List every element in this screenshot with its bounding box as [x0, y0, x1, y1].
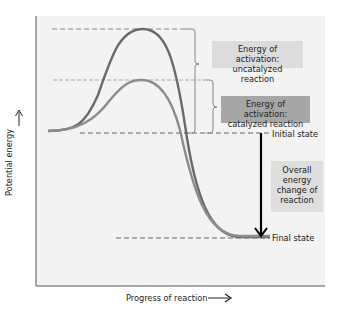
- overall-box-line1: Overall: [273, 165, 321, 175]
- final-state-label: Final state: [272, 233, 314, 243]
- y-axis-label: Potential energy: [4, 129, 14, 196]
- uncatalyzed-box-line2: uncatalyzed reaction: [216, 64, 299, 84]
- uncatalyzed-activation-box: Energy of activation: uncatalyzed reacti…: [212, 41, 303, 68]
- catalyzed-activation-box: Energy of activation: catalyzed reaction: [221, 96, 310, 123]
- initial-state-label: Initial state: [272, 129, 318, 139]
- overall-energy-change-box: Overall energy change of reaction: [271, 161, 323, 212]
- catalyzed-box-line1: Energy of activation:: [225, 99, 306, 119]
- overall-box-line2: energy: [273, 175, 321, 185]
- x-axis-label: Progress of reaction: [126, 293, 207, 303]
- overall-box-line4: reaction: [273, 195, 321, 205]
- uncatalyzed-box-line1: Energy of activation:: [216, 44, 299, 64]
- catalyzed-box-line2: catalyzed reaction: [225, 119, 306, 129]
- overall-box-line3: change of: [273, 185, 321, 195]
